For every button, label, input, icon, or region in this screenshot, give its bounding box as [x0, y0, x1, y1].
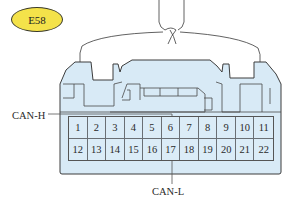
pin-cell-can-l: 17: [162, 139, 181, 161]
pin-cell: 18: [180, 139, 199, 161]
pin-cell: 8: [199, 117, 218, 139]
pin-cell: 19: [199, 139, 218, 161]
pin-cell: 15: [125, 139, 144, 161]
pin-cell: 20: [217, 139, 236, 161]
pin-cell: 22: [254, 139, 273, 161]
pin-cell-can-h: 6: [162, 117, 181, 139]
pin-cell: 9: [217, 117, 236, 139]
pin-cell: 14: [106, 139, 125, 161]
pin-cell: 16: [143, 139, 162, 161]
pin-cell: 10: [236, 117, 255, 139]
connector-id-badge: E58: [11, 7, 63, 32]
pin-cell: 3: [106, 117, 125, 139]
can-h-label: CAN-H: [12, 110, 45, 121]
pin-cell: 12: [69, 139, 88, 161]
pin-grid: 1 2 3 4 5 6 7 8 9 10 11 12 13 14 15 16 1…: [68, 116, 274, 161]
pin-cell: 2: [88, 117, 107, 139]
pin-cell: 1: [69, 117, 88, 139]
pin-cell: 11: [254, 117, 273, 139]
pin-cell: 21: [236, 139, 255, 161]
wire-harness: [80, 0, 261, 62]
pin-cell: 4: [125, 117, 144, 139]
pin-cell: 7: [180, 117, 199, 139]
can-l-label: CAN-L: [152, 186, 184, 197]
connector-id: E58: [28, 14, 46, 26]
pin-cell: 5: [143, 117, 162, 139]
pin-cell: 13: [88, 139, 107, 161]
